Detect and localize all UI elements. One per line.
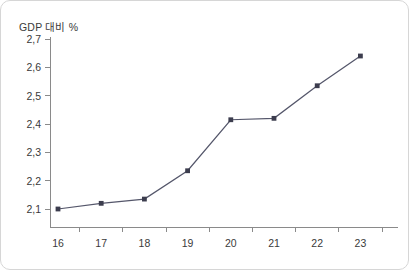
data-point-marker (185, 168, 190, 173)
data-point-marker (272, 116, 277, 121)
data-point-marker (56, 207, 61, 212)
series-group (56, 54, 363, 212)
data-point-marker (142, 197, 147, 202)
chart-area: GDP 대비 % 2,72,62,52,42,32,22,1 161718192… (1, 1, 409, 270)
data-point-marker (358, 54, 363, 59)
chart-card: GDP 대비 % 2,72,62,52,42,32,22,1 161718192… (0, 0, 409, 270)
series-line (58, 56, 360, 209)
plot-svg (1, 1, 409, 270)
data-point-marker (228, 117, 233, 122)
data-point-marker (99, 201, 104, 206)
data-point-marker (315, 83, 320, 88)
